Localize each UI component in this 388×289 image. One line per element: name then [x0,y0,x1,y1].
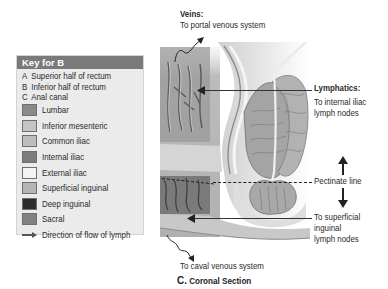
lymphatics-pointer-line [200,90,312,91]
legend-letter: A [22,71,31,82]
superficial-destination-line2: inguinal [314,223,341,234]
legend-letter: B [22,82,31,93]
veins-label: Veins: [180,9,203,20]
lymphatics-destination-line2: lymph nodes [314,108,359,119]
wavy-arrow-down-icon [164,233,204,263]
veins-title: Veins: [180,9,203,19]
legend-item-deep-inguinal: Deep inguinal [22,196,143,212]
color-swatch [22,135,37,147]
legend-item-lumbar: Lumbar [22,103,143,119]
legend-item-label: Lumbar [42,105,69,115]
pectinate-line-label: Pectinate line [314,176,361,187]
legend-item-external-iliac: External iliac [22,165,143,181]
caval-venous-label: To caval venous system [180,261,264,272]
color-swatch [22,151,37,163]
legend-item-label: Inferior mesenteric [42,121,107,131]
legend-item-internal-iliac: Internal iliac [22,149,143,165]
legend-letter: C [22,92,31,103]
legend-item-inferior-mesenteric: Inferior mesenteric [22,118,143,134]
color-swatch [22,104,37,116]
pectinate-dashed-line [213,182,312,183]
legend-letter-label: Inferior half of rectum [31,82,106,92]
legend-letter-a: ASuperior half of rectum [22,71,133,82]
color-swatch [22,182,37,194]
lymphatics-destination-line1: To internal iliac [314,97,366,108]
superficial-destination-line1: To superficial [314,212,360,223]
arrow-left-icon [187,214,195,223]
color-swatch [22,198,37,210]
legend-letter-b: BInferior half of rectum [22,82,133,93]
color-swatch [22,120,37,132]
veins-destination: To portal venous system [180,20,265,31]
wavy-arrow-up-icon [170,34,210,64]
legend-item-label: Deep inguinal [42,199,90,209]
legend-title: Key for B [17,56,143,69]
lymphatics-title: Lymphatics: [314,83,360,93]
anal-canal-illustration [160,42,310,242]
legend-item-label: Direction of flow of lymph [42,230,130,240]
caption-text: Coronal Section [189,276,251,286]
legend-item-label: Internal iliac [42,152,84,162]
arrow-right-icon [22,229,37,241]
legend-item-sacral: Sacral [22,212,143,228]
legend-letter-label: Anal canal [31,92,68,102]
lymphatics-label: Lymphatics: [314,83,360,94]
legend-item-label: Superficial inguinal [42,183,108,193]
legend-item-superficial-inguinal: Superficial inguinal [22,180,143,196]
legend-item-label: Sacral [42,214,64,224]
legend-letter-label: Superior half of rectum [31,71,111,81]
legend-item-label: External iliac [42,168,87,178]
superficial-pointer-line [190,218,312,219]
color-swatch [22,213,37,225]
arrow-down-icon [338,200,348,208]
arrow-left-icon [197,86,205,95]
legend-item-label: Common iliac [42,136,90,146]
legend-item-common-iliac: Common iliac [22,134,143,150]
figure-caption: C. Coronal Section [177,274,251,286]
legend-letter-c: CAnal canal [22,92,133,103]
color-swatch [22,167,37,179]
legend-key: Key for B ASuperior half of rectum BInfe… [16,55,144,235]
arrow-up-icon [338,156,348,164]
caption-letter: C. [177,274,187,286]
legend-item-flow-direction: Direction of flow of lymph [22,227,143,243]
superficial-destination-line3: lymph nodes [314,234,359,245]
